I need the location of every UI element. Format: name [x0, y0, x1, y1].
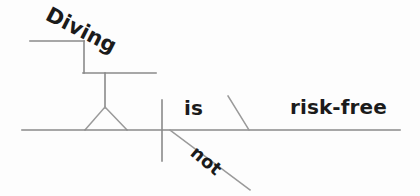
- predicate-adjective-slant-line: [228, 96, 249, 130]
- predicate-adjective-word-risk-free: risk-free: [290, 97, 387, 117]
- sentence-diagram: Diving is not risk-free: [0, 0, 420, 196]
- verb-word-is: is: [184, 98, 203, 118]
- pedestal-left-leg-line: [85, 107, 105, 130]
- pedestal-right-leg-line: [105, 107, 127, 130]
